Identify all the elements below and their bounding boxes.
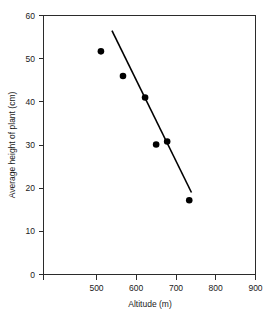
y-tick-label-10: 10 xyxy=(26,226,36,236)
y-tick-label-40: 40 xyxy=(26,97,36,107)
y-axis-ticks: 60 50 40 30 20 10 0 xyxy=(26,11,44,280)
data-point xyxy=(98,48,105,55)
data-point xyxy=(164,138,171,145)
x-tick-label-900: 900 xyxy=(248,283,262,293)
trend-line xyxy=(112,31,192,193)
y-tick-label-0: 0 xyxy=(30,270,35,280)
x-tick-label-500: 500 xyxy=(89,283,103,293)
data-point xyxy=(186,197,193,204)
x-tick-label-700: 700 xyxy=(169,283,183,293)
data-point xyxy=(153,141,160,148)
x-axis-ticks: 500 600 700 800 900 xyxy=(44,275,263,294)
scatter-plot: 60 50 40 30 20 10 0 500 600 700 800 xyxy=(0,0,276,321)
x-tick-label-800: 800 xyxy=(209,283,223,293)
x-tick-label-600: 600 xyxy=(129,283,143,293)
data-points-group xyxy=(98,48,193,204)
chart-figure: 60 50 40 30 20 10 0 500 600 700 800 xyxy=(0,0,276,321)
y-tick-label-60: 60 xyxy=(26,11,36,21)
data-point xyxy=(142,94,149,101)
plot-frame xyxy=(44,16,256,275)
x-axis-title: Altitude (m) xyxy=(128,299,172,309)
y-tick-label-50: 50 xyxy=(26,54,36,64)
y-axis-title: Average height of plant (cm) xyxy=(7,92,17,199)
y-tick-label-30: 30 xyxy=(26,140,36,150)
y-tick-label-20: 20 xyxy=(26,183,36,193)
data-point xyxy=(120,73,127,80)
